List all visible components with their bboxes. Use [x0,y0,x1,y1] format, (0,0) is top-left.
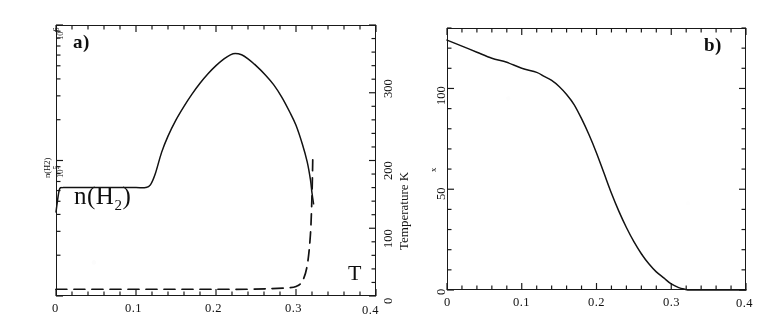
figure-two-panel-plot: a) 106 105 n(H2) 300 200 100 0 Temperatu… [0,0,782,328]
panel-b-canvas [0,0,782,328]
